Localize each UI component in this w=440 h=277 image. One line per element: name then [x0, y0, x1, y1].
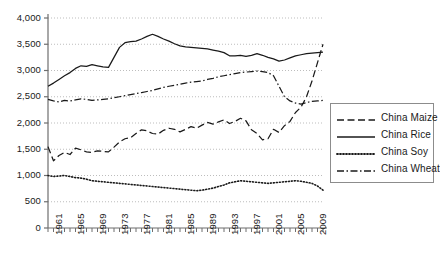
y-tick-label: 1,500 — [0, 143, 41, 154]
series-line-china-maize — [48, 44, 323, 161]
x-tick-label: 1989 — [207, 213, 218, 235]
y-tick-label: 4,000 — [0, 12, 41, 23]
series-line-china-rice — [48, 34, 323, 86]
x-tick-label: 1977 — [141, 213, 152, 235]
legend-item: China Wheat — [336, 160, 427, 177]
y-tick-label: 2,500 — [0, 90, 41, 101]
legend-label: China Wheat — [381, 163, 440, 174]
x-tick-label: 1997 — [251, 213, 262, 235]
x-tick-label: 1969 — [97, 213, 108, 235]
legend-item: China Soy — [336, 143, 427, 160]
y-tick-label: 0 — [0, 222, 41, 233]
chart-legend: China MaizeChina RiceChina SoyChina Whea… — [330, 103, 434, 183]
x-tick-label: 1985 — [185, 213, 196, 235]
y-tick-label: 3,500 — [0, 38, 41, 49]
y-tick-label: 2,000 — [0, 117, 41, 128]
legend-key-dotted-icon — [336, 146, 376, 158]
legend-key-dashed-icon — [336, 112, 376, 124]
legend-item: China Rice — [336, 126, 427, 143]
y-tick-label: 1,000 — [0, 169, 41, 180]
x-tick-label: 2009 — [317, 213, 328, 235]
y-tick-label: 3,000 — [0, 64, 41, 75]
x-tick-label: 1961 — [53, 213, 64, 235]
series-line-china-wheat — [48, 71, 323, 104]
legend-label: China Soy — [381, 146, 428, 157]
legend-label: China Rice — [381, 129, 431, 140]
x-tick-label: 1973 — [119, 213, 130, 235]
legend-key-solid-icon — [336, 129, 376, 141]
x-tick-label: 1981 — [163, 213, 174, 235]
y-tick-label: 500 — [0, 195, 41, 206]
x-tick-label: 1993 — [229, 213, 240, 235]
series-line-china-soy — [48, 176, 323, 191]
legend-label: China Maize — [381, 112, 438, 123]
chart-figure: 4,0003,5003,0002,5002,0001,5001,0005000 … — [0, 0, 440, 277]
legend-key-dashdot-icon — [336, 163, 376, 175]
x-tick-label: 1965 — [75, 213, 86, 235]
x-tick-label: 2001 — [273, 213, 284, 235]
x-tick-label: 2005 — [295, 213, 306, 235]
legend-item: China Maize — [336, 109, 427, 126]
